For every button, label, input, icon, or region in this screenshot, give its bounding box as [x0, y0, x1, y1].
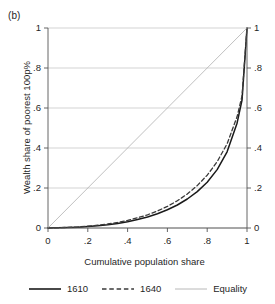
svg-text:0: 0: [254, 222, 259, 233]
svg-text:.4: .4: [124, 235, 132, 246]
svg-text:.8: .8: [203, 235, 211, 246]
svg-text:.2: .2: [254, 182, 262, 193]
series-curves: [48, 28, 247, 228]
svg-text:.6: .6: [163, 235, 171, 246]
plot-area: 00.2.2.4.4.6.6.8.8110.2.4.6.81: [0, 0, 275, 270]
legend-swatch-solid: [28, 285, 62, 293]
legend-item-equality[interactable]: Equality: [174, 284, 247, 294]
legend-label: 1610: [67, 284, 88, 294]
legend: 16101640Equality: [0, 274, 275, 304]
axis-ticks: [44, 28, 251, 232]
svg-text:1: 1: [36, 22, 41, 33]
lorenz-curve-figure: (b) Wealth share of poorest 100p% 00.2.2…: [0, 0, 275, 304]
legend-item-1610[interactable]: 1610: [28, 284, 88, 294]
svg-text:.4: .4: [33, 142, 41, 153]
legend-swatch-solid-thin: [174, 285, 208, 293]
svg-text:.2: .2: [33, 182, 41, 193]
svg-text:0: 0: [36, 222, 41, 233]
svg-text:1: 1: [244, 235, 249, 246]
legend-label: Equality: [213, 284, 247, 294]
legend-swatch-dashed: [101, 285, 135, 293]
x-axis-title: Cumulative population share: [41, 256, 248, 267]
legend-item-1640[interactable]: 1640: [101, 284, 161, 294]
svg-text:.8: .8: [254, 62, 262, 73]
axis-tick-labels: 00.2.2.4.4.6.6.8.8110.2.4.6.81: [33, 22, 262, 246]
svg-text:.6: .6: [254, 102, 262, 113]
svg-text:.6: .6: [33, 102, 41, 113]
svg-text:1: 1: [254, 22, 259, 33]
svg-text:.4: .4: [254, 142, 262, 153]
svg-text:.8: .8: [33, 62, 41, 73]
legend-label: 1640: [140, 284, 161, 294]
svg-text:.2: .2: [84, 235, 92, 246]
svg-text:0: 0: [45, 235, 50, 246]
